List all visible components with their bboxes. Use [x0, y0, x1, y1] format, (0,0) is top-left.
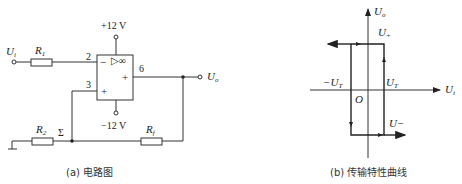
y-axis-label: Uo: [374, 5, 386, 19]
vplus-terminal: [114, 35, 118, 39]
ground-wire: [12, 141, 32, 149]
transfer-characteristic: Uo Ui U+ −UT UT O U− (b) 传输特性曲线: [310, 5, 455, 178]
bottom-direction-icon: [378, 133, 383, 137]
input-label: Ui: [6, 45, 16, 59]
figure-canvas: Ui R1 2 − ▷∞ + + +12 V −12 V 3 6 Uo: [0, 0, 462, 184]
rf-label: Rf: [145, 123, 156, 137]
circuit-diagram: Ui R1 2 − ▷∞ + + +12 V −12 V 3 6 Uo: [6, 20, 219, 178]
pos-threshold-label: UT: [386, 76, 399, 90]
top-direction-icon: [356, 42, 361, 46]
opamp-symbol: ▷∞: [111, 55, 126, 66]
vplus-label: +12 V: [101, 20, 127, 31]
rising-arrow-icon: [382, 57, 386, 62]
pin-6-label: 6: [139, 63, 144, 74]
transfer-caption: (b) 传输特性曲线: [330, 166, 407, 178]
neg-threshold-label: −UT: [323, 76, 343, 90]
sigma-junction-dot: [70, 139, 74, 143]
noninverting-sign: +: [101, 85, 107, 97]
vminus-terminal: [114, 111, 118, 115]
input-terminal: [12, 60, 16, 64]
resistor-r1: [31, 59, 52, 66]
u-plus-label: U+: [378, 26, 391, 40]
output-label: Uo: [207, 70, 219, 84]
resistor-rf: [141, 138, 162, 145]
r1-label: R1: [34, 44, 45, 58]
sigma-label: Σ: [58, 127, 64, 138]
falling-arrow-icon: [349, 122, 353, 127]
output-terminal: [198, 75, 202, 79]
circuit-caption: (a) 电路图: [66, 166, 113, 178]
output-sign: +: [122, 71, 128, 83]
pin-2-label: 2: [86, 51, 91, 62]
x-axis-label: Ui: [445, 83, 455, 97]
inverting-sign: −: [100, 56, 106, 68]
feedback-wire: [162, 77, 183, 141]
resistor-r2: [32, 138, 53, 145]
pin-3-label: 3: [86, 79, 91, 90]
origin-label: O: [355, 93, 363, 105]
noninverting-wire: [72, 91, 97, 141]
r2-label: R2: [35, 123, 47, 137]
vminus-label: −12 V: [101, 120, 127, 131]
u-minus-label: U−: [389, 117, 404, 129]
